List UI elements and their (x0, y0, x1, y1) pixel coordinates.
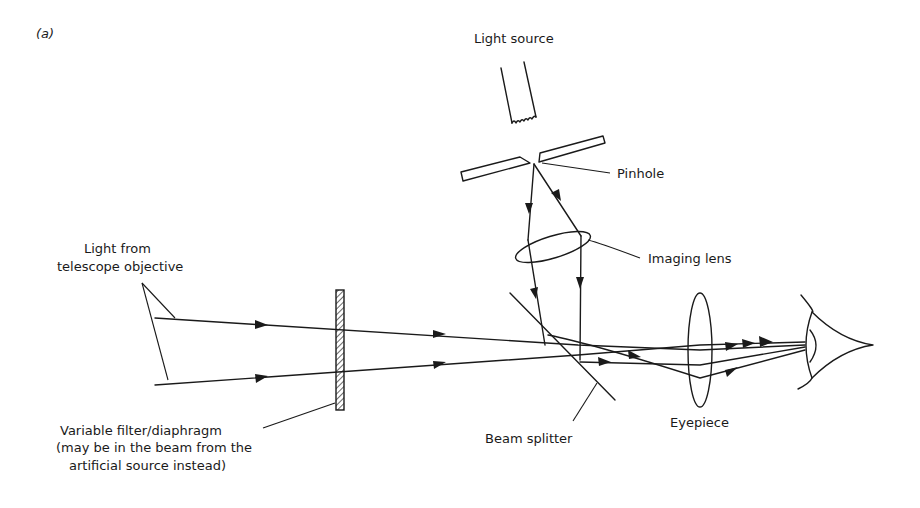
arrow-icon (628, 350, 641, 359)
filter-label-line3: artificial source instead) (69, 458, 226, 473)
arrow-icon (598, 357, 611, 366)
eye-icon (798, 295, 873, 389)
light-from-label-line2: telescope objective (57, 259, 183, 274)
pinhole-label: Pinhole (617, 166, 664, 181)
arrow-icon (525, 203, 533, 214)
arrow-icon (759, 336, 773, 347)
arrow-icon (725, 367, 738, 377)
arrow-icon (551, 189, 561, 201)
beam-splitter-label: Beam splitter (485, 431, 573, 446)
eyepiece-label: Eyepiece (670, 415, 729, 430)
optical-diagram: (a) Light source Pinhole Imaging lens Li… (0, 0, 920, 508)
telescope-rays (155, 318, 805, 385)
pinhole: Pinhole (461, 136, 664, 181)
arrow-icon (255, 374, 268, 383)
filter-label-line2: (may be in the beam from the (56, 440, 252, 455)
light-from-label-line1: Light from (84, 241, 151, 256)
light-source: Light source (474, 31, 554, 123)
arrow-icon (576, 277, 584, 289)
filter-label-line1: Variable filter/diaphragm (60, 423, 222, 438)
telescope-light-label: Light from telescope objective (57, 241, 183, 380)
imaging-lens-label: Imaging lens (648, 251, 732, 266)
panel-label: (a) (36, 26, 54, 41)
light-source-label: Light source (474, 31, 554, 46)
beam-splitter: Beam splitter (485, 293, 615, 446)
arrow-icon (255, 320, 268, 329)
arrow-icon (742, 339, 755, 348)
imaging-lens: Imaging lens (512, 225, 731, 269)
